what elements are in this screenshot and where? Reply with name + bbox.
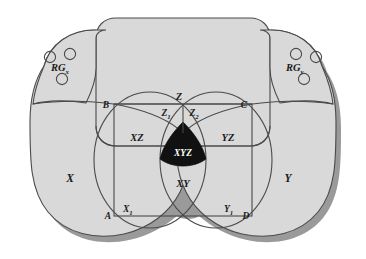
diagram-canvas: RGx RGy Z Z1 Z2 B C A D XZ YZ XYZ XY X Y… [0, 0, 366, 259]
label-xyz: XYZ [173, 148, 192, 158]
venn-diagram: RGx RGy Z Z1 Z2 B C A D XZ YZ XYZ XY X Y… [0, 0, 366, 259]
label-yz: YZ [222, 132, 235, 143]
label-xz: XZ [129, 132, 144, 143]
label-x: X [65, 172, 74, 184]
corner-label-c: C [241, 100, 248, 110]
corner-label-a: A [104, 211, 111, 221]
label-xy: XY [175, 178, 191, 189]
corner-label-b: B [102, 100, 109, 110]
corner-label-d: D [242, 211, 250, 221]
label-z: Z [175, 91, 183, 102]
label-y: Y [284, 172, 292, 184]
